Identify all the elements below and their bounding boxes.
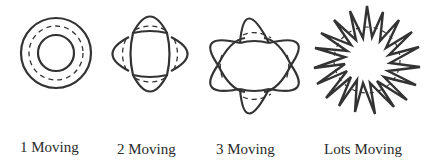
label-lots-moving: Lots Moving [324, 141, 402, 158]
label-3-moving: 3 Moving [216, 141, 275, 158]
figure-2-moving [113, 17, 188, 92]
label-2-moving: 2 Moving [117, 141, 176, 158]
label-1-moving: 1 Moving [20, 139, 79, 156]
figure-1-moving [21, 18, 91, 88]
figure-lots-moving [314, 6, 420, 114]
figure-3-moving [210, 19, 299, 114]
